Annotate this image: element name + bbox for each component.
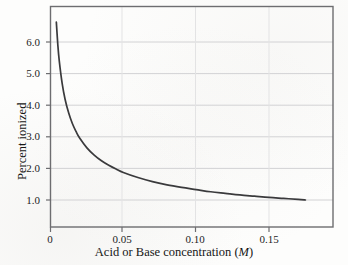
x-tick-label-0: 0 [30, 234, 70, 245]
x-axis-title: Acid or Base concentration (M) [0, 245, 348, 259]
plot-area-svg [0, 0, 348, 265]
ionization-chart-figure: 1.0 2.0 3.0 4.0 5.0 6.0 0 0.05 0.10 0.15… [0, 0, 348, 265]
y-tick-label-5: 5.0 [10, 68, 40, 79]
x-gridlines [122, 6, 269, 227]
y-tick-label-6: 6.0 [10, 37, 40, 48]
y-tick-label-1: 1.0 [10, 195, 40, 206]
x-tick-label-015: 0.15 [249, 234, 289, 245]
ionization-curve [56, 22, 305, 200]
x-tick-marks [51, 227, 270, 232]
x-axis-unit: M [239, 245, 249, 259]
x-axis-title-text: Acid or Base concentration ( [95, 245, 239, 259]
x-tick-label-010: 0.10 [175, 234, 215, 245]
plot-frame [51, 7, 334, 228]
y-axis-title: Percent ionized [16, 103, 29, 180]
x-axis-title-tail: ) [249, 245, 253, 259]
x-tick-label-005: 0.05 [102, 234, 142, 245]
gridlines [51, 42, 334, 200]
